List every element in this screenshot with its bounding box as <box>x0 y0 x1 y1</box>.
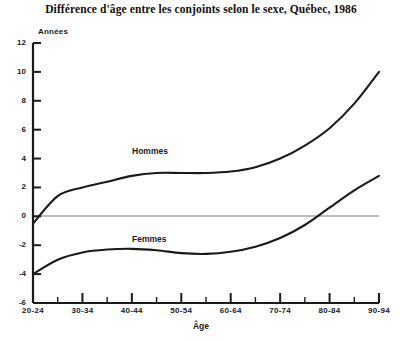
x-tick-label: 40-44 <box>109 306 155 315</box>
x-tick-label: 50-54 <box>158 306 204 315</box>
series-line-hommes <box>33 72 379 224</box>
x-tick-label: 90-94 <box>356 306 402 315</box>
x-tick-label: 70-74 <box>257 306 303 315</box>
x-tick-label: 20-24 <box>10 306 56 315</box>
y-tick-label: -4 <box>4 269 26 278</box>
x-axis-title: Âge <box>0 321 402 331</box>
series-line-femmes <box>33 176 379 274</box>
series-label-hommes: Hommes <box>132 146 168 156</box>
y-tick-label: 0 <box>4 211 26 220</box>
series-label-femmes: Femmes <box>132 234 167 244</box>
data-series-layer <box>33 72 379 274</box>
y-tick-label: 10 <box>4 67 26 76</box>
chart-figure: Différence d'âge entre les conjoints sel… <box>0 0 402 341</box>
y-tick-label: 2 <box>4 182 26 191</box>
y-axis-ticks <box>33 43 41 303</box>
x-tick-label: 30-34 <box>59 306 105 315</box>
plot-canvas <box>0 0 402 341</box>
y-tick-label: 4 <box>4 154 26 163</box>
x-axis-ticks <box>33 293 379 303</box>
x-tick-label: 80-84 <box>307 306 353 315</box>
y-tick-label: -2 <box>4 240 26 249</box>
y-tick-label: 6 <box>4 125 26 134</box>
y-tick-label: 12 <box>4 38 26 47</box>
x-tick-label: 60-64 <box>208 306 254 315</box>
y-tick-label: 8 <box>4 96 26 105</box>
